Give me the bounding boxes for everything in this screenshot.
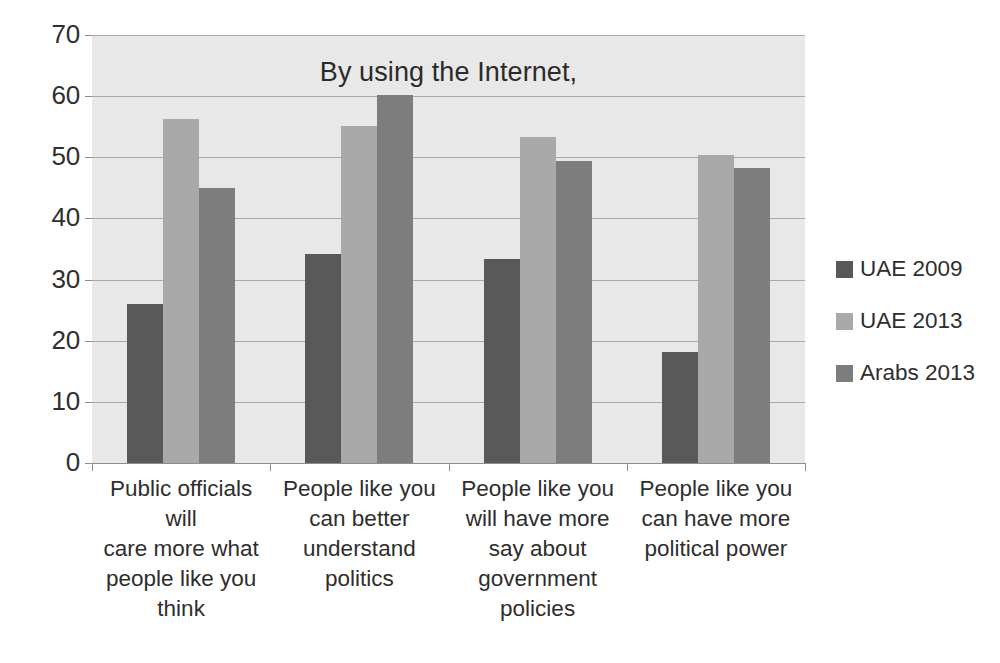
bar-arabs-2013 xyxy=(734,168,770,463)
legend-item-uae-2009: UAE 2009 xyxy=(836,243,996,295)
x-axis-tick-mark xyxy=(627,463,628,471)
x-axis-category-label-line: people like you xyxy=(92,564,270,594)
x-axis-category-label-line: say about xyxy=(449,534,627,564)
bar-arabs-2013 xyxy=(556,161,592,463)
x-axis-tick-mark xyxy=(805,463,806,471)
y-axis-tick-label: 0 xyxy=(10,449,80,475)
y-axis-tick-label: 40 xyxy=(10,204,80,230)
x-axis-category-label: People like youcan have morepolitical po… xyxy=(627,474,805,564)
bar-uae-2013 xyxy=(698,155,734,463)
legend-label: UAE 2009 xyxy=(860,257,963,281)
x-axis-category-label-line: Public officials will xyxy=(92,474,270,534)
bar-arabs-2013 xyxy=(199,188,235,463)
gridline xyxy=(92,96,805,97)
y-axis-tick-label: 20 xyxy=(10,327,80,353)
bar-uae-2013 xyxy=(163,119,199,463)
y-axis-tick-label: 30 xyxy=(10,266,80,292)
bar-uae-2009 xyxy=(662,352,698,463)
x-axis-category-label: Public officials willcare more whatpeopl… xyxy=(92,474,270,624)
x-axis-category-label-line: government xyxy=(449,564,627,594)
legend-label: Arabs 2013 xyxy=(860,361,975,385)
x-axis-category-labels: Public officials willcare more whatpeopl… xyxy=(92,474,805,644)
bar-uae-2009 xyxy=(127,304,163,463)
bar-arabs-2013 xyxy=(377,95,413,463)
x-axis-category-label: People like youwill have moresay aboutgo… xyxy=(449,474,627,624)
x-axis-category-label-line: People like you xyxy=(627,474,805,504)
bar-uae-2013 xyxy=(341,126,377,464)
x-axis-category-label-line: can better xyxy=(270,504,448,534)
legend-swatch xyxy=(836,365,853,382)
legend-swatch xyxy=(836,261,853,278)
x-axis-category-label-line: think xyxy=(92,594,270,624)
plot-area: By using the Internet, xyxy=(92,35,805,463)
chart-legend: UAE 2009UAE 2013Arabs 2013 xyxy=(836,243,996,399)
y-axis-tick-label: 60 xyxy=(10,82,80,108)
y-axis-tick-label: 50 xyxy=(10,143,80,169)
x-axis-category-label-line: People like you xyxy=(270,474,448,504)
x-axis-category-label: People like youcan betterunderstandpolit… xyxy=(270,474,448,594)
bar-uae-2009 xyxy=(484,259,520,463)
x-axis-tick-mark xyxy=(92,463,93,471)
x-axis-tick-mark xyxy=(270,463,271,471)
bar-uae-2013 xyxy=(520,137,556,463)
x-axis-category-label-line: can have more xyxy=(627,504,805,534)
legend-item-arabs-2013: Arabs 2013 xyxy=(836,347,996,399)
x-axis-category-label-line: will have more xyxy=(449,504,627,534)
legend-item-uae-2013: UAE 2013 xyxy=(836,295,996,347)
x-axis-tick-mark xyxy=(449,463,450,471)
y-axis-tick-label: 70 xyxy=(10,21,80,47)
legend-swatch xyxy=(836,313,853,330)
bar-chart-figure: 010203040506070 By using the Internet, P… xyxy=(0,0,1000,663)
gridline xyxy=(92,35,805,36)
x-axis-category-label-line: understand xyxy=(270,534,448,564)
x-axis-category-label-line: political power xyxy=(627,534,805,564)
x-axis-category-label-line: care more what xyxy=(92,534,270,564)
x-axis-category-label-line: People like you xyxy=(449,474,627,504)
chart-title: By using the Internet, xyxy=(92,57,805,87)
bar-uae-2009 xyxy=(305,254,341,463)
legend-label: UAE 2013 xyxy=(860,309,963,333)
y-axis-labels: 010203040506070 xyxy=(0,0,80,663)
x-axis-category-label-line: policies xyxy=(449,594,627,624)
y-axis-tick-label: 10 xyxy=(10,388,80,414)
x-axis-category-label-line: politics xyxy=(270,564,448,594)
